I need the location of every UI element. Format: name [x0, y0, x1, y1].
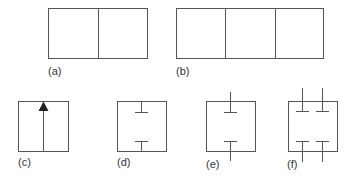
- panel-label-d: (d): [117, 157, 130, 168]
- panel-b-shape: [177, 9, 324, 59]
- panel-label-f: (f): [287, 159, 297, 170]
- diagram-canvas: [0, 0, 353, 179]
- panel-label-a: (a): [48, 66, 61, 77]
- arrow-up-icon: [39, 102, 49, 112]
- panel-e-shape: [207, 92, 256, 161]
- panel-a-shape: [49, 9, 148, 59]
- panel-label-c: (c): [18, 157, 31, 168]
- panel-d-shape: [118, 102, 167, 152]
- panel-label-b: (b): [176, 66, 189, 77]
- panel-f-shape: [289, 88, 338, 162]
- panel-label-e: (e): [206, 159, 219, 170]
